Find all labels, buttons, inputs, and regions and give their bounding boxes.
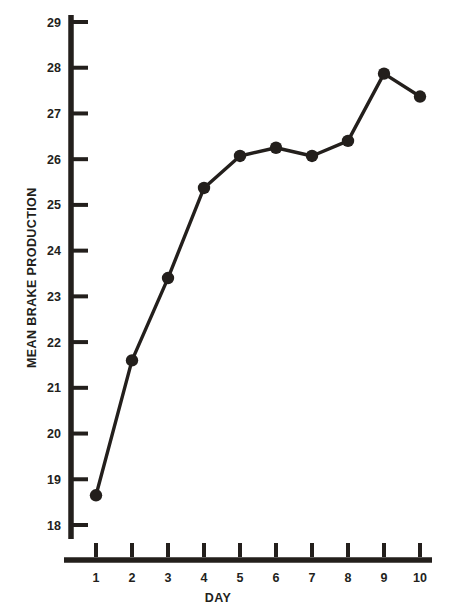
data-series-mean-brake-production: [90, 67, 426, 501]
x-axis-tick-label-10: 10: [413, 571, 427, 585]
y-axis-tick-label-19: 19: [47, 473, 61, 487]
y-axis-tick-label-27: 27: [47, 107, 61, 121]
y-axis-tick-label-28: 28: [47, 61, 61, 75]
data-point-day-5: [234, 150, 246, 162]
data-point-day-7: [306, 150, 318, 162]
x-axis-tick-label-7: 7: [309, 571, 316, 585]
x-axis-tick-label-9: 9: [381, 571, 388, 585]
x-axis-tick-label-1: 1: [93, 571, 100, 585]
x-axis-title: DAY: [205, 591, 232, 605]
y-axis-tick-label-25: 25: [47, 198, 61, 212]
y-axis-tick-label-20: 20: [47, 427, 61, 441]
y-axis-tick-label-24: 24: [47, 244, 61, 258]
chart-plot-area: 181920212223242526272829 12345678910 MEA…: [0, 0, 451, 615]
data-point-day-2: [126, 354, 138, 366]
y-axis-tick-label-22: 22: [47, 336, 61, 350]
x-axis-tick-label-4: 4: [201, 571, 208, 585]
y-axis-tick-label-21: 21: [47, 381, 61, 395]
x-axis-tick-label-2: 2: [129, 571, 136, 585]
data-point-day-6: [270, 142, 282, 154]
y-axis-tick-label-23: 23: [47, 290, 61, 304]
data-point-day-8: [342, 135, 354, 147]
data-point-day-3: [162, 272, 174, 284]
x-axis-tick-label-6: 6: [273, 571, 280, 585]
data-point-day-9: [378, 67, 390, 79]
x-axis-tick-label-8: 8: [345, 571, 352, 585]
y-axis: 181920212223242526272829: [47, 15, 88, 539]
series-polyline: [96, 74, 420, 496]
y-axis-tick-label-29: 29: [47, 16, 61, 30]
chart-figure: 181920212223242526272829 12345678910 MEA…: [0, 0, 451, 615]
x-axis: 12345678910: [64, 543, 432, 585]
data-point-day-10: [414, 90, 426, 102]
y-axis-title: MEAN BRAKE PRODUCTION: [25, 187, 39, 368]
data-point-day-4: [198, 182, 210, 194]
y-axis-tick-label-18: 18: [47, 519, 61, 533]
x-axis-tick-label-5: 5: [237, 571, 244, 585]
x-axis-tick-label-3: 3: [165, 571, 172, 585]
y-axis-tick-label-26: 26: [47, 153, 61, 167]
data-point-day-1: [90, 489, 102, 501]
